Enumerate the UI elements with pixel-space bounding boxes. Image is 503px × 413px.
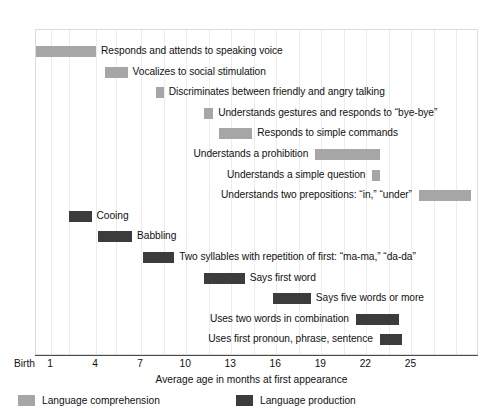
row-label: Babbling xyxy=(137,229,176,243)
row-label: Vocalizes to social stimulation xyxy=(133,65,266,79)
bar-production xyxy=(69,211,92,222)
row-label: Uses first pronoun, phrase, sentence xyxy=(208,332,373,346)
row-label: Says first word xyxy=(250,271,316,285)
bar-comprehension xyxy=(372,170,380,181)
chart-row: Discriminates between friendly and angry… xyxy=(36,86,477,100)
x-tick-label: 4 xyxy=(92,357,98,371)
x-tick-label: 19 xyxy=(315,357,326,371)
plot-area: Responds and attends to speaking voiceVo… xyxy=(35,29,478,355)
chart-row: Two syllables with repetition of first: … xyxy=(36,251,477,265)
chart-row: Says five words or more xyxy=(36,292,477,306)
legend-label: Language production xyxy=(260,395,356,406)
chart-row: Responds and attends to speaking voice xyxy=(36,45,477,59)
legend-swatch-icon xyxy=(236,395,253,406)
row-label: Uses two words in combination xyxy=(210,312,349,326)
bar-comprehension xyxy=(219,128,252,139)
chart-row: Understands a simple question xyxy=(36,169,477,183)
bar-comprehension xyxy=(105,67,128,78)
x-tick-label: 13 xyxy=(225,357,236,371)
x-tick-label: 7 xyxy=(137,357,143,371)
chart-row: Vocalizes to social stimulation xyxy=(36,66,477,80)
row-label: Two syllables with repetition of first: … xyxy=(179,250,416,264)
x-tick-label: 1 xyxy=(47,357,53,371)
x-axis-title: Average age in months at first appearanc… xyxy=(0,374,503,385)
bar-comprehension xyxy=(204,108,213,119)
bar-production xyxy=(356,314,400,325)
chart-row: Understands a prohibition xyxy=(36,148,477,162)
bar-production xyxy=(273,293,311,304)
row-label: Understands a simple question xyxy=(227,168,365,182)
chart-legend: Language comprehensionLanguage productio… xyxy=(18,392,488,410)
row-label: Understands a prohibition xyxy=(193,147,308,161)
x-tick-label: 22 xyxy=(360,357,371,371)
chart-row: Uses first pronoun, phrase, sentence xyxy=(36,333,477,347)
chart-row: Understands two prepositions: “in,” “und… xyxy=(36,189,477,203)
row-label: Responds and attends to speaking voice xyxy=(101,44,283,58)
legend-item[interactable]: Language production xyxy=(236,392,356,408)
chart-row: Understands gestures and responds to “by… xyxy=(36,107,477,121)
bar-production xyxy=(380,334,403,345)
chart-row: Says first word xyxy=(36,272,477,286)
row-label: Understands gestures and responds to “by… xyxy=(218,106,437,120)
bar-comprehension xyxy=(315,149,380,160)
chart-row: Babbling xyxy=(36,230,477,244)
language-development-chart: Responds and attends to speaking voiceVo… xyxy=(0,0,503,413)
chart-row: Responds to simple commands xyxy=(36,127,477,141)
bar-production xyxy=(98,231,133,242)
row-label: Responds to simple commands xyxy=(257,126,398,140)
bar-comprehension xyxy=(36,46,96,57)
legend-swatch-icon xyxy=(18,395,35,406)
chart-row: Uses two words in combination xyxy=(36,313,477,327)
x-tick-label: 16 xyxy=(270,357,281,371)
bar-comprehension xyxy=(156,87,164,98)
bar-production xyxy=(204,273,245,284)
legend-item[interactable]: Language comprehension xyxy=(18,392,160,408)
bar-production xyxy=(143,252,175,263)
x-tick-label: 25 xyxy=(405,357,416,371)
x-tick-label: Birth xyxy=(14,357,35,371)
x-tick-label: 10 xyxy=(179,357,190,371)
row-label: Discriminates between friendly and angry… xyxy=(169,85,385,99)
row-label: Says five words or more xyxy=(316,291,424,305)
chart-row: Cooing xyxy=(36,210,477,224)
row-label: Understands two prepositions: “in,” “und… xyxy=(221,188,412,202)
row-label: Cooing xyxy=(97,209,129,223)
bar-comprehension xyxy=(419,190,472,201)
legend-label: Language comprehension xyxy=(42,395,160,406)
x-axis-line xyxy=(35,355,478,356)
